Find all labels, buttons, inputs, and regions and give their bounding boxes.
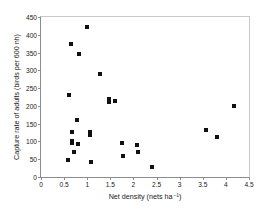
y-axis-tick: [38, 88, 41, 89]
data-point: [77, 52, 81, 56]
x-axis-tick: [87, 177, 88, 180]
x-axis-tick: [226, 177, 227, 180]
y-axis-tick-label: 350: [26, 49, 37, 56]
y-axis-label: Capture rate of adults (birds per 600 nh…: [9, 16, 23, 178]
x-axis-tick: [133, 177, 134, 180]
y-axis-tick: [38, 53, 41, 54]
x-axis-tick: [110, 177, 111, 180]
x-axis-tick-label: 2.5: [152, 181, 161, 188]
data-point: [204, 128, 208, 132]
data-point-layer: [41, 17, 249, 177]
x-axis-tick-label: 0.5: [60, 181, 69, 188]
data-point: [136, 150, 140, 154]
x-axis-tick-label: 0: [39, 181, 43, 188]
x-axis-tick: [157, 177, 158, 180]
x-axis-tick: [249, 177, 250, 180]
data-point: [89, 160, 93, 164]
data-point: [98, 72, 102, 76]
data-point: [70, 141, 74, 145]
data-point: [232, 104, 236, 108]
scatter-plot-figure: Capture rate of adults (birds per 600 nh…: [0, 0, 269, 209]
y-axis-tick: [38, 141, 41, 142]
y-axis-tick-label: 0: [33, 174, 37, 181]
y-axis-tick-label: 400: [26, 31, 37, 38]
data-point: [70, 130, 74, 134]
data-point: [113, 99, 117, 103]
data-point: [72, 150, 76, 154]
y-axis-tick-label: 250: [26, 85, 37, 92]
data-point: [107, 100, 111, 104]
x-axis-tick: [64, 177, 65, 180]
data-point: [120, 141, 124, 145]
data-point: [150, 165, 154, 169]
data-point: [75, 118, 79, 122]
data-point: [88, 133, 92, 137]
x-axis-tick-label: 4.5: [244, 181, 253, 188]
data-point: [215, 135, 219, 139]
y-axis-tick-label: 450: [26, 14, 37, 21]
plot-area: 05010015020025030035040045000.511.522.53…: [40, 16, 250, 178]
x-axis-tick: [41, 177, 42, 180]
x-axis-tick: [180, 177, 181, 180]
x-axis-tick-label: 2: [132, 181, 136, 188]
data-point: [76, 142, 80, 146]
data-point: [66, 158, 70, 162]
data-point: [85, 25, 89, 29]
x-axis-tick-label: 4: [224, 181, 228, 188]
x-axis-tick-label: 3.5: [198, 181, 207, 188]
y-axis-tick: [38, 159, 41, 160]
y-axis-tick: [38, 106, 41, 107]
y-axis-tick: [38, 17, 41, 18]
y-axis-tick-label: 100: [26, 138, 37, 145]
data-point: [69, 42, 73, 46]
y-axis-tick-label: 200: [26, 102, 37, 109]
x-axis-tick: [203, 177, 204, 180]
y-axis-tick: [38, 35, 41, 36]
x-axis-tick-label: 1.5: [106, 181, 115, 188]
y-axis-tick: [38, 124, 41, 125]
data-point: [67, 93, 71, 97]
data-point: [121, 154, 125, 158]
y-axis-tick: [38, 70, 41, 71]
data-point: [135, 143, 139, 147]
x-axis-tick-label: 1: [85, 181, 89, 188]
y-axis-tick-label: 150: [26, 120, 37, 127]
y-axis-tick-label: 50: [30, 156, 37, 163]
x-axis-label: Net density (nets ha⁻¹): [40, 192, 250, 201]
x-axis-tick-label: 3: [178, 181, 182, 188]
y-axis-tick-label: 300: [26, 67, 37, 74]
